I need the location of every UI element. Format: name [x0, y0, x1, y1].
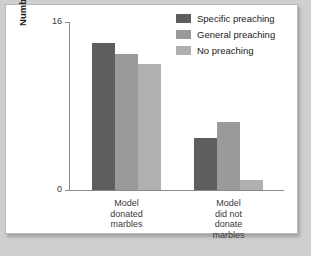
legend-swatch-icon-1 [176, 30, 191, 39]
legend-label-0: Specific preaching [197, 13, 275, 24]
x-category-label-0: Model donated marbles [87, 198, 167, 230]
chart-figure: 16 0 Number of children donating (maximu… [5, 4, 298, 234]
bar-group0-series0 [92, 43, 115, 190]
y-tick-label-0: 0 [36, 184, 62, 194]
x-category-label-1: Model did not donate marbles [189, 198, 269, 240]
legend-label-2: No preaching [197, 45, 254, 56]
y-axis-title: Number of children donating (maximum is … [17, 0, 41, 36]
bar-group0-series2 [138, 64, 161, 190]
y-tick-0 [65, 190, 69, 191]
legend-label-1: General preaching [197, 29, 275, 40]
legend-swatch-icon-2 [176, 46, 191, 55]
legend: Specific preachingGeneral preachingNo pr… [176, 12, 275, 60]
y-tick-16 [65, 22, 69, 23]
legend-item-1: General preaching [176, 28, 275, 41]
legend-item-2: No preaching [176, 44, 275, 57]
bar-group0-series1 [115, 54, 138, 191]
legend-item-0: Specific preaching [176, 12, 275, 25]
bar-group1-series2 [240, 180, 263, 191]
bar-group1-series0 [194, 138, 217, 191]
x-axis-line [69, 190, 284, 191]
legend-swatch-icon-0 [176, 14, 191, 23]
bar-group1-series1 [217, 122, 240, 190]
y-axis-line [69, 22, 70, 191]
